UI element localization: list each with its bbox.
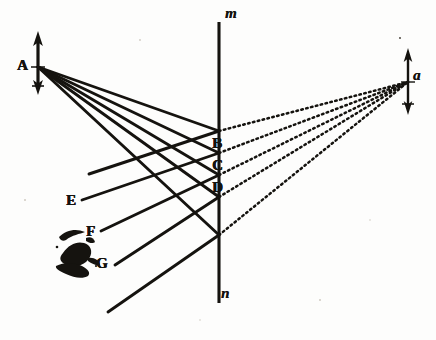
virtual-ray-3: [219, 82, 408, 175]
virtual-ray-2: [219, 82, 408, 153]
label-axis-top-m: m: [225, 6, 237, 21]
label-axis-bottom-n: n: [221, 286, 229, 301]
label-left-point-E: E: [66, 193, 76, 208]
label-image-point-a: a: [413, 68, 421, 83]
incident-ray-5: [38, 67, 219, 235]
label-plane-point-B: B: [212, 136, 222, 151]
label-left-point-G: G: [96, 256, 108, 271]
reflected-ray-3: [101, 175, 219, 231]
virtual-ray-4: [219, 82, 408, 197]
reflected-ray-4: [115, 197, 219, 265]
virtual-ray-5: [219, 82, 408, 235]
virtual-rays-group: [219, 82, 408, 235]
label-plane-point-D: D: [212, 180, 223, 195]
figure-canvas: A a m n B C D E F G: [0, 0, 436, 340]
incident-ray-4: [38, 67, 219, 197]
label-object-point-A: A: [17, 58, 28, 73]
reflected-ray-2: [82, 153, 219, 200]
incident-rays-group: [38, 67, 219, 235]
label-left-point-F: F: [86, 224, 95, 239]
object-arrow-A: [31, 31, 45, 95]
reflected-ray-5: [108, 235, 219, 312]
label-plane-point-C: C: [212, 158, 223, 173]
reflected-rays-group: [82, 131, 219, 312]
